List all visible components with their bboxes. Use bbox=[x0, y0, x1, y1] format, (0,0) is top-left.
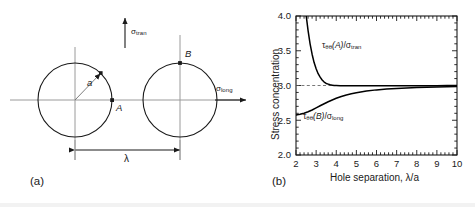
x-tick-label: 10 bbox=[452, 158, 463, 169]
point-b-marker bbox=[178, 61, 182, 65]
y-axis-title: Stress concentration bbox=[270, 49, 281, 140]
bottom-edge-band bbox=[0, 203, 475, 207]
curve-label-tau-A: τθθ(A)/σtran bbox=[322, 41, 361, 50]
sigma-long-label: σlong bbox=[216, 85, 233, 93]
x-tick-label: 4 bbox=[334, 158, 339, 169]
sigma-long-subscript: long bbox=[221, 87, 233, 93]
tau-point-a: (A) bbox=[332, 40, 343, 50]
radius-endpoint-dot bbox=[99, 71, 103, 75]
point-b-label: B bbox=[185, 49, 191, 59]
figure-root: σtran σlong a λ A B (a) 2.02.53.03.54.0 … bbox=[0, 0, 475, 207]
sigma-subscript-b: long bbox=[332, 115, 343, 121]
point-a-marker bbox=[110, 98, 114, 102]
radius-label: a bbox=[87, 78, 92, 88]
y-tick-label: 4.0 bbox=[278, 10, 291, 21]
sigma-tran-subscript: tran bbox=[136, 30, 147, 36]
sigma-subscript-a: tran bbox=[351, 44, 361, 50]
x-tick-label: 9 bbox=[434, 158, 439, 169]
x-tick-label: 5 bbox=[354, 158, 359, 169]
x-axis-title: Hole separation, λ/a bbox=[330, 173, 419, 183]
x-tick-label: 8 bbox=[414, 158, 419, 169]
tau-point-b: (B) bbox=[313, 111, 324, 121]
sigma-tran-label: σtran bbox=[131, 28, 147, 36]
curve-0 bbox=[296, 0, 457, 86]
curve-label-tau-B: τθθ(B)/σlong bbox=[303, 112, 343, 121]
x-tick-label: 7 bbox=[394, 158, 399, 169]
point-a-label: A bbox=[116, 103, 122, 113]
x-tick-label: 6 bbox=[374, 158, 379, 169]
x-tick-label: 3 bbox=[313, 158, 318, 169]
y-tick-label: 2.0 bbox=[278, 149, 291, 160]
lambda-label: λ bbox=[124, 154, 129, 164]
panel-b-letter: (b) bbox=[272, 176, 286, 188]
x-tick-label: 2 bbox=[293, 158, 298, 169]
x-tick-labels: 2345678910 bbox=[293, 158, 462, 169]
panel-a-letter: (a) bbox=[30, 176, 44, 188]
